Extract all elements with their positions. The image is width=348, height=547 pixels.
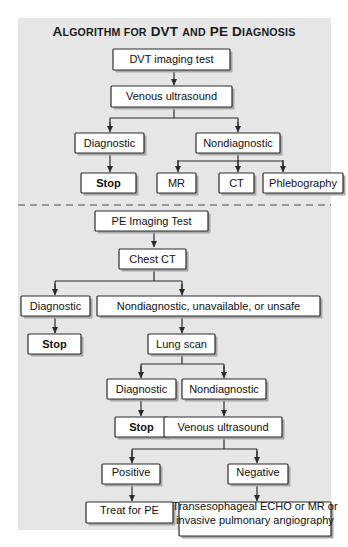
title-seg-5: AND [182,26,206,38]
node-label: Diagnostic [30,300,82,312]
node-label: Nondiagnostic [203,137,273,149]
node-nondiagnostic-1[interactable]: Nondiagnostic [196,133,283,156]
node-tee-angiography[interactable]: Transesophageal ECHO or MR or invasive p… [172,500,338,538]
node-label: Venous ultrasound [126,90,217,102]
node-pe-imaging-test[interactable]: PE Imaging Test [95,211,211,234]
node-label: Diagnostic [84,137,136,149]
node-chest-ct[interactable]: Chest CT [119,249,189,272]
node-label: DVT imaging test [129,53,213,65]
node-label: Diagnostic [116,383,168,395]
node-label: Nondiagnostic, unavailable, or unsafe [117,300,300,312]
edge-nondiagnostic-fan [178,154,283,168]
node-label: Negative [236,466,279,478]
title-seg-0: A [53,24,63,39]
node-stop-3[interactable]: Stop [115,417,171,440]
node-label: CT [229,177,244,189]
edge-lungscan-split [141,355,224,373]
node-nondiagnostic-2[interactable]: Nondiagnostic, unavailable, or unsafe [97,296,323,319]
node-label: Venous ultrasound [177,421,268,433]
node-label: Phlebography [269,177,337,189]
node-positive[interactable]: Positive [102,464,163,487]
node-nondiagnostic-3[interactable]: Nondiagnostic [182,379,269,402]
node-label: Lung scan [156,338,207,350]
title-seg-3: FOR [124,26,147,38]
node-venous-ultrasound-2[interactable]: Venous ultrasound [164,417,285,440]
node-label: Stop [42,338,67,350]
title-seg-7: IAGNOSIS [242,26,295,38]
node-label-line1: Transesophageal ECHO or MR or [172,500,338,512]
dvt-edges [110,70,283,172]
edge-chestct-split [55,270,182,292]
figure-stage: ALGORITHM FOR DVT AND PE DIAGNOSIS DVT i… [0,0,348,547]
node-label: Nondiagnostic [189,383,259,395]
page-title: ALGORITHM FOR DVT AND PE DIAGNOSIS [53,24,296,39]
node-label: Chest CT [129,253,176,265]
node-label: MR [168,177,185,189]
edge-us-split [110,107,238,130]
flowchart: ALGORITHM FOR DVT AND PE DIAGNOSIS DVT i… [0,0,348,547]
edge-us2-split [132,438,257,458]
node-label: Positive [112,466,151,478]
node-stop-2[interactable]: Stop [28,334,84,357]
node-lung-scan[interactable]: Lung scan [148,334,218,357]
node-mr[interactable]: MR [157,173,199,196]
node-stop-1[interactable]: Stop [81,173,139,196]
node-diagnostic-3[interactable]: Diagnostic [107,379,179,402]
node-negative[interactable]: Negative [228,464,291,487]
node-phlebography[interactable]: Phlebography [263,173,346,196]
node-label: Stop [96,177,121,189]
node-dvt-imaging-test[interactable]: DVT imaging test [113,49,233,73]
node-ct[interactable]: CT [219,173,257,196]
node-label: PE Imaging Test [112,215,192,227]
title-seg-1: LGORITHM [62,26,120,38]
node-label: Treat for PE [100,504,159,516]
title-seg-4: DVT [147,24,183,39]
node-label: Stop [129,421,154,433]
pe-edges [55,232,257,501]
title-seg-6: PE D [206,24,242,39]
node-label-line2: invasive pulmonary angiography [176,514,334,526]
node-treat-for-pe[interactable]: Treat for PE [86,502,176,526]
node-diagnostic-1[interactable]: Diagnostic [75,133,147,156]
node-diagnostic-2[interactable]: Diagnostic [21,296,93,319]
node-venous-ultrasound-1[interactable]: Venous ultrasound [111,86,235,110]
